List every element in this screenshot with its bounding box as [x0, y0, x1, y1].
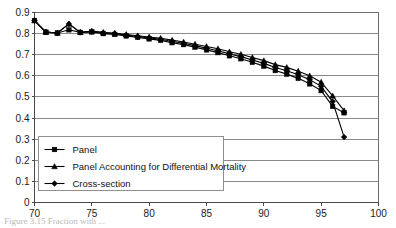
y-tick-label-0.7: 0.7: [16, 49, 30, 60]
y-tick-label-0.6: 0.6: [16, 70, 30, 81]
figure-caption: Figure 3.15 Fraction with ...: [4, 216, 396, 227]
y-tick-label-0.1: 0.1: [16, 176, 30, 187]
legend-label-2: Cross-section: [73, 178, 131, 189]
y-tick-label-0.5: 0.5: [16, 91, 30, 102]
y-tick-label-0.2: 0.2: [16, 155, 30, 166]
y-tick-label-0.4: 0.4: [16, 113, 30, 124]
legend-marker-square: [52, 147, 57, 152]
line-chart: 00.10.20.30.40.50.60.70.80.9707580859095…: [0, 0, 396, 228]
figure-container: 00.10.20.30.40.50.60.70.80.9707580859095…: [0, 0, 396, 228]
legend-label-1: Panel Accounting for Differential Mortal…: [73, 161, 247, 172]
y-tick-label-0: 0: [24, 197, 30, 208]
y-tick-label-0.8: 0.8: [16, 28, 30, 39]
y-tick-label-0.9: 0.9: [16, 7, 30, 18]
series-0-point-26: [330, 104, 335, 109]
legend-label-0: Panel: [73, 144, 97, 155]
series-0-point-3: [67, 28, 72, 33]
y-tick-label-0.3: 0.3: [16, 134, 30, 145]
